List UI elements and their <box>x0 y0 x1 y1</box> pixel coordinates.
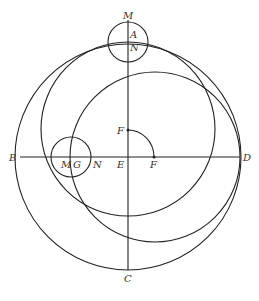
quarter-arc <box>128 130 154 157</box>
label-M-left: M <box>60 159 72 170</box>
point-F-upper <box>127 129 130 132</box>
label-M-top: M <box>122 10 134 21</box>
label-C: C <box>124 273 132 284</box>
label-N-left: N <box>92 159 103 170</box>
label-E: E <box>116 159 125 170</box>
label-F-upper: F <box>116 125 125 136</box>
label-A: A <box>129 29 137 40</box>
label-B: B <box>8 152 16 163</box>
label-F-lower: F <box>149 159 158 170</box>
label-N-top: N <box>129 42 140 53</box>
label-G: G <box>73 159 81 170</box>
geometry-diagram: M A N F B M G N E F D C <box>0 0 259 301</box>
label-D: D <box>242 152 251 163</box>
